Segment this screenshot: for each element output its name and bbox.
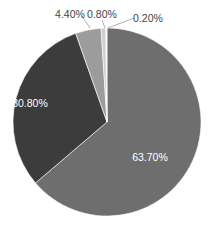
- pie-chart: 63.70%30.80%4.40%0.80%0.20%: [0, 0, 209, 228]
- slice-label: 63.70%: [132, 151, 168, 163]
- slice-label: 4.40%: [55, 8, 85, 20]
- pie-slices: [13, 28, 201, 216]
- slice-label: 0.80%: [87, 8, 117, 20]
- slice-label: 0.20%: [133, 12, 163, 24]
- leader-line: [102, 20, 105, 28]
- slice-label: 30.80%: [12, 97, 48, 109]
